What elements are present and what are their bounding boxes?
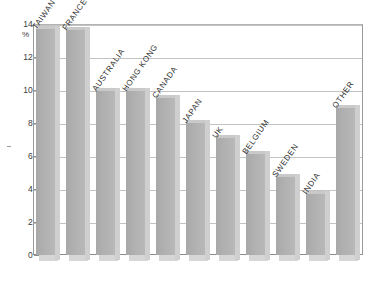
bar-front-face: [96, 88, 115, 255]
bar-side-face: [355, 105, 360, 260]
bar-front-face: [336, 105, 355, 255]
bar-side-face: [205, 120, 210, 260]
bar: [246, 151, 265, 255]
bar-chart: % 02468101214 TAIWANFRANCEAUSTRALIAHONG …: [0, 0, 369, 288]
y-axis-tick-label: 6: [11, 151, 33, 161]
bar-front-face: [66, 27, 85, 255]
y-axis-tick-label: 14: [11, 19, 33, 29]
bar: [66, 27, 85, 255]
y-axis-unit-label: %: [22, 30, 29, 39]
bar: [336, 105, 355, 255]
y-axis-tick-label: 10: [11, 85, 33, 95]
bar: [156, 95, 175, 255]
y-axis-tick-label: 12: [11, 52, 33, 62]
bar-side-face: [115, 88, 120, 260]
bar-front-face: [186, 120, 205, 255]
bar: [276, 174, 295, 255]
y-axis-tick-label: 0: [11, 250, 33, 260]
y-axis-tick-label: 2: [11, 217, 33, 227]
stray-tick-mark: [7, 146, 11, 147]
bar-side-face: [55, 26, 60, 260]
bar: [36, 26, 55, 255]
bar-front-face: [156, 95, 175, 255]
bar: [96, 88, 115, 255]
bar: [306, 191, 325, 255]
bar-front-face: [36, 26, 55, 255]
bar-side-face: [145, 88, 150, 260]
bar: [126, 88, 145, 255]
bars-layer: [33, 24, 363, 255]
bar-side-face: [85, 27, 90, 260]
bar-side-face: [175, 95, 180, 260]
bar: [216, 135, 235, 255]
bar-side-face: [235, 135, 240, 260]
y-axis-tick-label: 4: [11, 184, 33, 194]
bar-side-face: [325, 191, 330, 260]
y-axis: % 02468101214: [0, 24, 33, 255]
bar-side-face: [265, 151, 270, 260]
bar: [186, 120, 205, 255]
bar-front-face: [306, 191, 325, 255]
bar-front-face: [246, 151, 265, 255]
bar-front-face: [276, 174, 295, 255]
bar-front-face: [216, 135, 235, 255]
bar-front-face: [126, 88, 145, 255]
y-axis-tick-label: 8: [11, 118, 33, 128]
bar-side-face: [295, 174, 300, 260]
